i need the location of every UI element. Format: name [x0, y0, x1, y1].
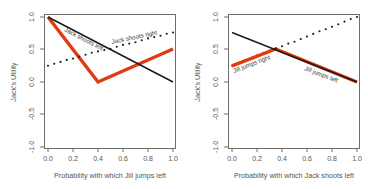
left-x-tick-0.2: 0.2	[68, 155, 78, 162]
chart-panel-left: Jack's Utility -1.0 -0.5 0.0 0.5 1.0 0.0	[0, 0, 184, 189]
left-x-tick-0.6: 0.6	[118, 155, 128, 162]
left-x-axis-label: Probability with which Jill jumps left	[54, 171, 166, 180]
right-x-tick-0.0: 0.0	[227, 155, 237, 162]
left-y-tick-0.5: 0.5	[28, 44, 35, 54]
left-y-tick--1.0: -1.0	[28, 141, 35, 153]
left-y-tick-1.0: 1.0	[28, 12, 35, 22]
right-chart-svg: Jack's Utility -1.0 -0.5 0.0 0.5 1.0 0.0…	[184, 0, 368, 189]
right-y-axis-label: Jack's Utility	[193, 62, 202, 102]
left-x-tick-0.0: 0.0	[43, 155, 53, 162]
right-y-tick-0.5: 0.5	[212, 44, 219, 54]
right-y-tick--1.0: -1.0	[212, 141, 219, 153]
right-x-tick-0.4: 0.4	[277, 155, 287, 162]
right-plot-frame	[229, 15, 360, 149]
right-x-axis-label: Probability with which Jack shoots left	[234, 171, 354, 180]
left-x-tick-0.4: 0.4	[93, 155, 103, 162]
left-y-tick-0.0: 0.0	[28, 77, 35, 87]
left-chart-svg: Jack's Utility -1.0 -0.5 0.0 0.5 1.0 0.0	[0, 0, 184, 189]
right-y-tick-0.0: 0.0	[212, 77, 219, 87]
left-y-tick--0.5: -0.5	[28, 108, 35, 120]
left-x-tick-0.8: 0.8	[143, 155, 153, 162]
right-x-tick-0.2: 0.2	[252, 155, 262, 162]
left-annotation-jack-shoots-right: Jack shoots right	[111, 28, 158, 45]
right-x-tick-1.0: 1.0	[352, 155, 362, 162]
two-panel-figure: Jack's Utility -1.0 -0.5 0.0 0.5 1.0 0.0	[0, 0, 368, 189]
right-y-tick-1.0: 1.0	[212, 12, 219, 22]
left-series-jack-shoots-right	[47, 31, 174, 66]
left-y-axis-label: Jack's Utility	[9, 62, 18, 102]
chart-panel-right: Jack's Utility -1.0 -0.5 0.0 0.5 1.0 0.0…	[184, 0, 368, 189]
left-x-tick-1.0: 1.0	[168, 155, 178, 162]
right-x-tick-0.6: 0.6	[302, 155, 312, 162]
right-x-tick-0.8: 0.8	[327, 155, 337, 162]
right-y-tick--0.5: -0.5	[212, 108, 219, 120]
